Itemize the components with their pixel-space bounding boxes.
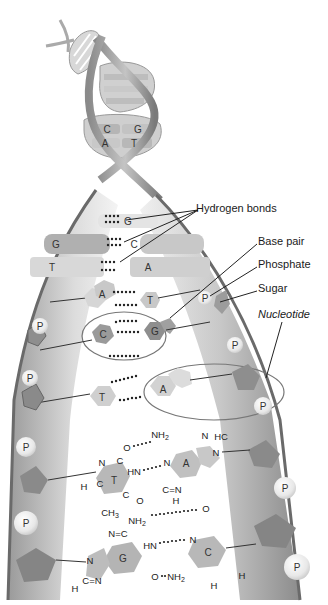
svg-text:O: O [123, 442, 130, 453]
svg-text:C: C [117, 455, 124, 466]
svg-text:P: P [232, 340, 239, 351]
svg-text:HN: HN [143, 540, 157, 551]
svg-text:N: N [190, 534, 197, 545]
helix-base-a: A [102, 138, 109, 149]
svg-text:C: C [204, 547, 211, 558]
helix-base-g: G [134, 124, 142, 135]
svg-text:C=N: C=N [82, 575, 101, 586]
phosphate-ball: P [32, 318, 48, 334]
svg-text:O: O [136, 495, 143, 506]
svg-text:NH2: NH2 [167, 571, 185, 583]
phosphate-ball: P [14, 511, 38, 535]
svg-text:C: C [97, 478, 104, 489]
svg-text:N: N [87, 555, 94, 566]
svg-text:HN: HN [127, 466, 141, 477]
base-a: A [99, 289, 106, 300]
phosphate-ball: P [284, 554, 310, 580]
svg-text:P: P [37, 321, 44, 332]
base-a2: A [160, 384, 167, 395]
svg-text:N: N [164, 457, 171, 468]
base-g: G [151, 326, 159, 337]
svg-text:NH2: NH2 [151, 429, 169, 441]
svg-text:H: H [211, 580, 218, 591]
chemical-pair-g-c: G C NH2 O N=C HN N N H H O NH2 C=N H [56, 503, 256, 594]
svg-text:P: P [282, 483, 289, 494]
svg-text:P: P [27, 373, 34, 384]
ladder-base-c: C [130, 239, 137, 250]
chemical-pair-t-a: T A O NH2 N HC N C HN N N H C C O CH3 C=… [48, 429, 250, 519]
svg-text:T: T [111, 475, 117, 486]
ladder-base-t: T [49, 262, 55, 273]
svg-text:HC: HC [214, 431, 228, 442]
svg-text:N: N [213, 447, 220, 458]
svg-text:C: C [123, 489, 130, 500]
svg-text:H: H [173, 495, 180, 506]
svg-text:NH2: NH2 [128, 515, 146, 527]
svg-text:O: O [151, 571, 158, 582]
svg-text:H: H [72, 583, 79, 594]
svg-text:P: P [23, 442, 30, 453]
base-t: T [147, 295, 153, 306]
dna-diagram: C G A T G G C T A A [0, 0, 328, 605]
svg-text:P: P [260, 401, 267, 412]
phosphate-ball: P [16, 437, 36, 457]
label-nucleotide: Nucleotide [258, 308, 310, 320]
svg-text:O: O [202, 503, 209, 514]
label-sugar: Sugar [258, 282, 288, 294]
label-base-pair: Base pair [258, 235, 305, 247]
phosphate-ball: P [274, 477, 296, 499]
svg-text:N=C: N=C [108, 528, 127, 539]
phosphate-ball: P [254, 397, 272, 415]
helix-base-c: C [103, 124, 110, 135]
ladder-base-a: A [145, 262, 152, 273]
svg-text:CH3: CH3 [101, 507, 119, 519]
svg-text:N: N [99, 457, 106, 468]
svg-text:H: H [81, 481, 88, 492]
label-phosphate: Phosphate [258, 258, 311, 270]
phosphate-ball: P [227, 337, 243, 353]
svg-text:C=N: C=N [162, 484, 181, 495]
ladder-base-g: G [124, 216, 132, 227]
phosphate-ball: P [198, 291, 212, 305]
base-t2: T [99, 392, 105, 403]
label-hydrogen-bonds: Hydrogen bonds [196, 202, 277, 214]
svg-text:A: A [183, 458, 190, 469]
svg-text:P: P [294, 562, 301, 573]
ladder-base-g2: G [52, 239, 60, 250]
base-c: C [99, 329, 106, 340]
phosphate-ball: P [22, 370, 38, 386]
helix-top: C G A T [46, 20, 161, 200]
svg-text:P: P [202, 293, 209, 304]
svg-text:P: P [23, 518, 30, 529]
svg-text:H: H [239, 570, 246, 581]
svg-text:N: N [202, 430, 209, 441]
svg-text:G: G [119, 553, 127, 564]
helix-base-t: T [131, 138, 137, 149]
